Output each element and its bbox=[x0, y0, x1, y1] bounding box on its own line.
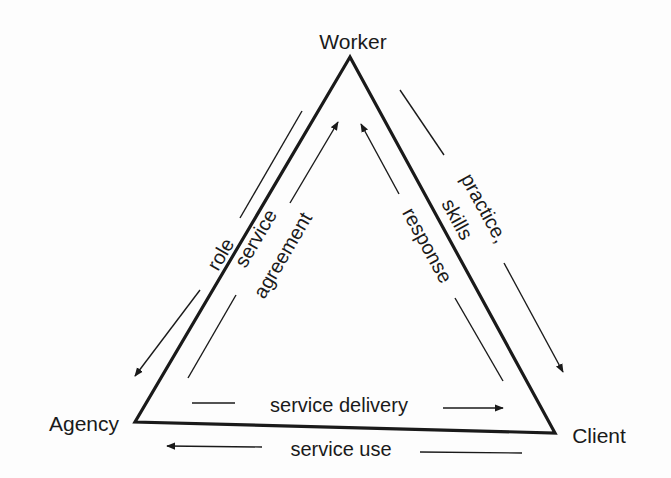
edge-service-delivery-label: service delivery bbox=[270, 394, 408, 416]
edge-response: response bbox=[361, 124, 503, 381]
node-worker: Worker bbox=[319, 30, 386, 53]
node-agency: Agency bbox=[49, 412, 120, 435]
edge-service-use-label: service use bbox=[290, 438, 391, 460]
triangle-diagram: Worker Agency Client role service agreem… bbox=[0, 0, 671, 478]
edge-service-delivery: service delivery bbox=[192, 394, 503, 416]
node-client: Client bbox=[572, 424, 626, 447]
edge-service-use: service use bbox=[167, 438, 522, 460]
triangle-frame bbox=[135, 57, 555, 433]
